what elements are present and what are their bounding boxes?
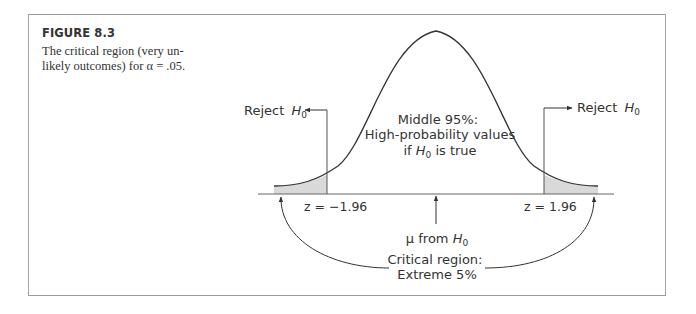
- mean-label: μ from H0: [406, 231, 469, 248]
- critical-region-diagram: Reject H0 Reject H0 Middle 95%: High-pro…: [0, 0, 696, 314]
- left-reject-label: Reject H0: [244, 103, 307, 120]
- middle-region-label: Middle 95%: High-probability values: [365, 112, 516, 142]
- right-z-label: z = 1.96: [524, 199, 577, 214]
- right-reject-label: Reject H0: [577, 100, 640, 117]
- critical-region-label: Critical region: Extreme 5%: [387, 252, 486, 282]
- middle-region-condition: if H0 is true: [403, 143, 476, 160]
- left-tail-shade: [274, 175, 327, 194]
- left-z-label: z = −1.96: [304, 199, 367, 214]
- right-tail-shade: [544, 175, 598, 194]
